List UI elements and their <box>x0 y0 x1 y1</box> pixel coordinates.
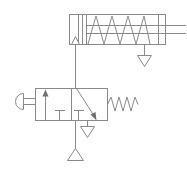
return-spring-zigzag <box>108 97 139 111</box>
pneumatic-circuit-diagram <box>0 0 186 169</box>
valve-left-arrow-head <box>43 90 49 97</box>
valve-right-arrow-shaft <box>77 89 95 117</box>
valve-right-diagonal-arrow <box>77 89 97 121</box>
valve-left-flow-arrow-up <box>43 90 49 120</box>
valve-left-blocked-port <box>55 111 65 121</box>
cylinder-body <box>70 15 166 45</box>
valve-exhaust <box>81 121 95 138</box>
valve-box-right <box>72 89 108 121</box>
three-two-way-valve <box>16 89 139 121</box>
valve-box-left <box>36 89 72 121</box>
valve-right-blocked-port <box>74 111 84 121</box>
single-acting-spring-return-cylinder <box>70 15 187 45</box>
valve-exhaust-triangle <box>81 127 95 138</box>
cylinder-exhaust <box>138 45 152 67</box>
pressure-supply-triangle <box>68 149 84 161</box>
cylinder-return-spring <box>88 16 150 44</box>
valve-right-arrow-head <box>91 112 97 121</box>
pushbutton-head-icon[interactable] <box>16 94 24 110</box>
circuit-schematic-canvas <box>0 0 186 169</box>
cylinder-exhaust-triangle <box>138 56 152 67</box>
pushbutton-actuator[interactable] <box>16 94 36 110</box>
valve-return-spring <box>108 97 139 111</box>
